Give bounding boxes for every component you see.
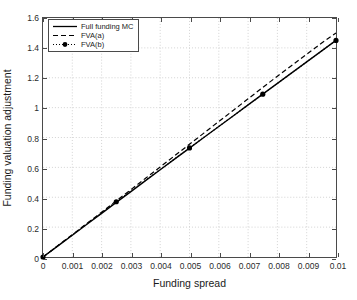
y-tick-label: 0.6 <box>27 164 39 173</box>
x-tick-label: 0.006 <box>209 262 230 271</box>
y-tick-label: 1 <box>34 104 39 113</box>
y-tick-label: 0.2 <box>27 225 39 234</box>
legend-sample-dotted-line-marker <box>52 40 78 49</box>
y-tick-label: 1.4 <box>27 44 39 53</box>
y-axis-title-text: Funding valuation adjustment <box>1 69 13 206</box>
x-tick-mark <box>279 18 280 22</box>
chart-figure: Funding valuation adjustment 00.20.40.60… <box>0 0 357 300</box>
x-tick-mark <box>161 18 162 22</box>
x-tick-label: 0.001 <box>62 262 83 271</box>
chart-legend: Full funding MC FVA(a) FVA(b) <box>48 19 139 52</box>
y-tick-mark <box>43 169 47 170</box>
x-tick-mark <box>43 253 44 257</box>
legend-item-full-funding-mc: Full funding MC <box>52 22 134 31</box>
x-tick-label: 0.004 <box>150 262 171 271</box>
y-tick-mark <box>43 199 47 200</box>
legend-label-full-funding-mc: Full funding MC <box>81 22 134 31</box>
legend-item-fva-a: FVA(a) <box>52 31 134 40</box>
x-tick-label: 0.005 <box>180 262 201 271</box>
x-tick-mark <box>191 18 192 22</box>
y-tick-mark <box>43 259 47 260</box>
legend-sample-dashed-line <box>52 31 78 40</box>
y-axis-title: Funding valuation adjustment <box>0 17 14 258</box>
x-tick-mark <box>220 18 221 22</box>
x-tick-mark <box>43 18 44 22</box>
x-tick-label: 0.007 <box>239 262 260 271</box>
x-tick-mark <box>102 253 103 257</box>
legend-label-fva-a: FVA(a) <box>81 31 104 40</box>
y-tick-label: 0.4 <box>27 195 39 204</box>
x-tick-mark <box>191 253 192 257</box>
y-tick-mark <box>43 229 47 230</box>
x-tick-mark <box>338 253 339 257</box>
x-tick-mark <box>250 253 251 257</box>
y-tick-mark <box>43 139 47 140</box>
x-tick-mark <box>279 253 280 257</box>
legend-sample-solid-line <box>52 22 78 31</box>
y-tick-mark <box>332 139 336 140</box>
x-tick-label: 0 <box>41 262 46 271</box>
y-tick-mark <box>43 78 47 79</box>
y-tick-mark <box>332 169 336 170</box>
data-point-marker <box>333 38 338 43</box>
y-tick-mark <box>332 199 336 200</box>
plot-area: 00.20.40.60.811.21.41.600.0010.0020.0030… <box>42 17 337 258</box>
series-line-fva-a <box>43 33 336 257</box>
x-tick-mark <box>338 18 339 22</box>
x-tick-mark <box>309 253 310 257</box>
y-tick-mark <box>332 48 336 49</box>
y-tick-label: 1.2 <box>27 74 39 83</box>
y-tick-label: 0.8 <box>27 134 39 143</box>
x-tick-mark <box>132 253 133 257</box>
data-series-layer <box>43 18 336 257</box>
x-tick-mark <box>250 18 251 22</box>
y-tick-mark <box>332 78 336 79</box>
y-tick-mark <box>332 229 336 230</box>
y-tick-mark <box>332 259 336 260</box>
x-tick-mark <box>161 253 162 257</box>
y-tick-label: 1.6 <box>27 14 39 23</box>
legend-item-fva-b: FVA(b) <box>52 40 134 49</box>
legend-label-fva-b: FVA(b) <box>81 40 104 49</box>
x-tick-mark <box>73 253 74 257</box>
y-tick-mark <box>332 18 336 19</box>
x-axis-title: Funding spread <box>42 278 337 289</box>
x-tick-label: 0.002 <box>91 262 112 271</box>
y-tick-label: 0 <box>34 255 39 264</box>
data-point-marker <box>114 199 119 204</box>
data-point-marker <box>260 92 265 97</box>
x-tick-mark <box>309 18 310 22</box>
data-point-marker <box>187 145 192 150</box>
x-tick-label: 0.003 <box>121 262 142 271</box>
y-tick-mark <box>43 108 47 109</box>
y-tick-mark <box>43 48 47 49</box>
y-tick-mark <box>332 108 336 109</box>
x-tick-label: 0.009 <box>298 262 319 271</box>
x-tick-label: 0.008 <box>268 262 289 271</box>
x-tick-label: 0.01 <box>330 262 347 271</box>
x-tick-mark <box>220 253 221 257</box>
